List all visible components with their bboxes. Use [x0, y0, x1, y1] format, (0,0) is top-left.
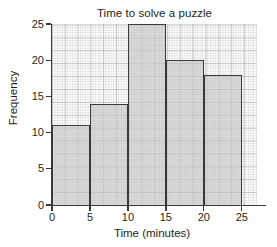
x-axis-tick-label: 5 — [75, 212, 105, 223]
y-axis-tick — [46, 96, 51, 97]
x-axis-tick-label: 10 — [113, 212, 143, 223]
plot-area — [52, 24, 257, 205]
y-axis-tick-label: 20 — [4, 55, 44, 66]
y-axis-tick — [46, 23, 51, 24]
x-axis-tick-label: 0 — [37, 212, 67, 223]
histogram-bar — [204, 75, 242, 205]
y-axis-line — [51, 24, 52, 206]
x-axis-tick-label: 25 — [227, 212, 257, 223]
chart-title: Time to solve a puzzle — [52, 6, 257, 20]
x-axis-tick-label: 20 — [189, 212, 219, 223]
histogram-bar — [52, 125, 90, 205]
histogram-figure: Time to solve a puzzle Frequency 0510152… — [0, 0, 277, 247]
x-axis-tick-label: 15 — [151, 212, 181, 223]
y-axis-tick-label: 0 — [4, 200, 44, 211]
y-axis-tick — [46, 204, 51, 205]
y-axis-tick-label: 10 — [4, 127, 44, 138]
y-axis-tick — [46, 60, 51, 61]
y-axis-tick-label: 5 — [4, 163, 44, 174]
y-axis-tick — [46, 168, 51, 169]
histogram-bar — [166, 60, 204, 205]
histogram-bar — [90, 104, 128, 205]
x-axis-line — [51, 205, 266, 206]
x-axis-title: Time (minutes) — [52, 227, 252, 240]
y-axis-tick — [46, 132, 51, 133]
y-axis-tick-label: 25 — [4, 19, 44, 30]
histogram-bar — [128, 24, 166, 205]
y-axis-tick-label: 15 — [4, 91, 44, 102]
